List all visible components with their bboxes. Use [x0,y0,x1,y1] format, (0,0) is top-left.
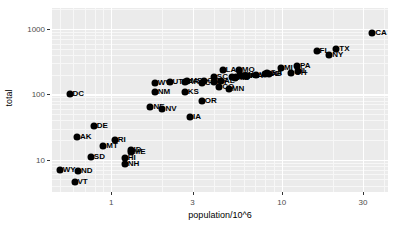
y-axis-title: total [4,58,14,138]
gridline-minor-horizontal [52,163,388,164]
data-point-label: NM [158,88,170,96]
data-point-label: CT [205,79,216,87]
data-point-label: WV [158,79,171,87]
gridline-minor-horizontal [52,114,388,115]
data-point-label: AK [80,133,92,141]
data-point-label: OR [205,97,217,105]
scatter-plot-figure: CATXNYFLPAILOHMINJGANCVAMAINWATNMOWIMDAZ… [0,0,398,236]
data-point-label: AR [188,78,200,86]
gridline-minor-horizontal [52,39,388,40]
gridline-minor-horizontal [52,97,388,98]
data-point-label: RI [118,136,126,144]
data-point-label: DC [73,90,85,98]
x-tick-mark [363,192,364,195]
gridline-minor-horizontal [52,179,388,180]
gridline-major-vertical [111,8,112,192]
x-tick-label: 3 [190,198,194,207]
x-tick-mark [282,192,283,195]
data-point-label: CA [375,29,387,37]
data-point-label: VT [78,178,88,186]
x-tick-label: 30 [359,198,368,207]
y-tick-mark [47,160,50,161]
y-tick-mark [47,29,50,30]
x-tick-mark [193,192,194,195]
gridline-minor-horizontal [52,63,388,64]
gridline-minor-horizontal [52,109,388,110]
gridline-minor-horizontal [52,170,388,171]
gridline-major-horizontal [52,29,388,30]
data-point-label: UT [173,78,184,86]
data-point-label: OH [294,69,306,77]
data-point-label: MI [284,64,293,72]
gridline-major-horizontal [52,94,388,95]
gridline-minor-horizontal [52,35,388,36]
y-tick-mark [47,94,50,95]
gridline-major-vertical [193,8,194,192]
x-axis-ticks: 131030 [52,192,388,210]
x-axis-title: population/10^6 [52,210,388,220]
data-point-label: FL [320,47,330,55]
gridline-minor-horizontal [52,101,388,102]
x-tick-mark [111,192,112,195]
gridline-minor-horizontal [52,140,388,141]
data-point-label: HI [128,154,136,162]
y-tick-label: 100 [32,90,45,99]
gridline-minor-horizontal [52,104,388,105]
x-tick-label: 1 [109,198,113,207]
gridline-minor-horizontal [52,174,388,175]
gridline-minor-horizontal [52,44,388,45]
data-point-label: NV [165,105,176,113]
y-tick-label: 1000 [27,25,45,34]
gridline-major-vertical [363,8,364,192]
data-point-label: NE [153,103,164,111]
plot-panel: CATXNYFLPAILOHMINJGANCVAMAINWATNMOWIMDAZ… [52,8,388,192]
gridline-minor-horizontal [52,166,388,167]
gridline-minor-horizontal [52,32,388,33]
data-point-label: IA [193,113,201,121]
data-point-label: MT [106,142,118,150]
data-point-label: ND [81,167,93,175]
x-tick-label: 10 [277,198,286,207]
y-tick-label: 10 [36,156,45,165]
gridline-minor-horizontal [52,186,388,187]
data-point-label: NY [332,51,343,59]
data-point-label: WY [63,166,76,174]
data-point-label: KS [188,88,199,96]
gridline-minor-horizontal [52,9,388,10]
data-point-label: DE [97,122,108,130]
gridline-major-vertical [282,8,283,192]
data-point-label: SD [94,153,105,161]
